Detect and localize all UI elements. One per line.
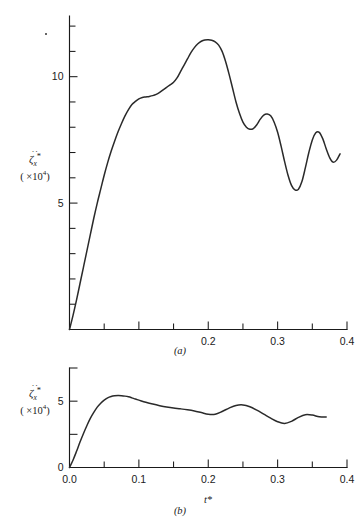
- svg-text:10: 10: [52, 70, 64, 82]
- svg-text:0.3: 0.3: [270, 473, 285, 485]
- panel-a-y-symbol-dots: ··: [32, 146, 39, 156]
- svg-text:5: 5: [58, 197, 64, 209]
- panel-a-y-axis-label: ··ζx* ( ×104): [2, 152, 68, 182]
- panel-b-y-scale-open: ( ×10: [20, 404, 43, 415]
- svg-text:0: 0: [58, 461, 64, 473]
- panel-a-y-ticks: [70, 26, 78, 329]
- panel-b-y-scale: ( ×104): [2, 403, 68, 417]
- panel-b-y-axis-label: ··ζx* ( ×104): [2, 386, 68, 416]
- panel-b-x-ticks: [70, 460, 348, 468]
- stray-mark-dot: [45, 33, 47, 35]
- figure-container: 0.20.30.4 510 ··ζx* ( ×104) (a) 0.00.10.…: [0, 0, 360, 520]
- panel-b-x-tick-labels: 0.00.10.20.30.4: [62, 473, 354, 485]
- panel-b-curve: [70, 396, 327, 468]
- panel-b-y-scale-close: ): [46, 404, 50, 415]
- panel-a-y-scale: ( ×104): [2, 169, 68, 183]
- svg-text:0.4: 0.4: [340, 473, 355, 485]
- svg-text:0.2: 0.2: [201, 473, 216, 485]
- svg-text:0.0: 0.0: [62, 473, 77, 485]
- svg-text:0.1: 0.1: [132, 473, 147, 485]
- panel-a-label: (a): [0, 345, 360, 356]
- panel-b-plot: 0.00.10.20.30.4 05 t*: [0, 360, 360, 510]
- panel-a-curve: [70, 40, 341, 330]
- panel-b-y-symbol: ··ζx*: [2, 386, 68, 403]
- panel-a-x-ticks: [70, 322, 348, 330]
- panel-a-y-tick-labels: 510: [52, 70, 64, 208]
- panel-b-label: (b): [0, 505, 360, 516]
- panel-a-plot: 0.20.30.4 510: [0, 0, 360, 365]
- panel-a-y-scale-open: ( ×10: [20, 170, 43, 181]
- panel-b-x-axis-label: t*: [204, 494, 213, 505]
- panel-b-y-symbol-dots: ··: [32, 380, 39, 390]
- panel-a-y-scale-close: ): [46, 170, 50, 181]
- panel-a-y-symbol: ··ζx*: [2, 152, 68, 169]
